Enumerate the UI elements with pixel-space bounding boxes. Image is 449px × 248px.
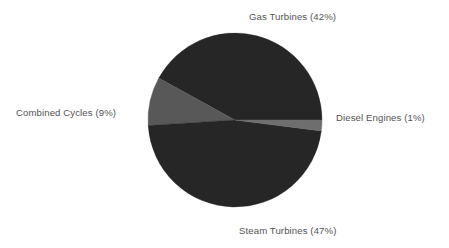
- pie-chart-canvas: [0, 0, 449, 248]
- pie-chart-figure: Gas Turbines (42%) Combined Cycles (9%) …: [0, 0, 449, 248]
- pie-label-diesel-engines: Diesel Engines (1%): [336, 112, 425, 124]
- pie-label-gas-turbines: Gas Turbines (42%): [249, 11, 336, 23]
- pie-label-steam-turbines: Steam Turbines (47%): [239, 225, 336, 237]
- pie-label-combined-cycles: Combined Cycles (9%): [16, 107, 116, 119]
- pie-slices: [148, 33, 322, 207]
- pie-slice-steam-turbines: [148, 120, 321, 207]
